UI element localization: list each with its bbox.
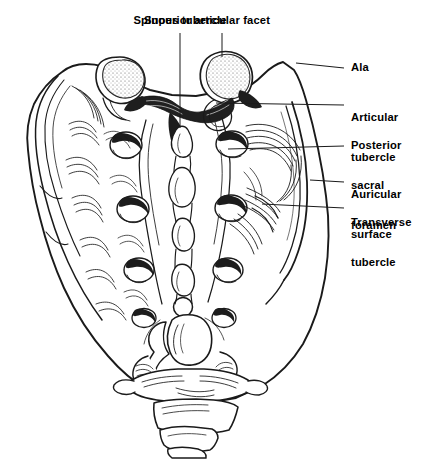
label-transverse-tubercle: Transverse tubercle — [351, 190, 412, 296]
label-ala: Ala — [351, 61, 369, 74]
foramen-right-4 — [212, 308, 236, 327]
coccyx-transverse-process-right — [246, 380, 268, 395]
label-transverse-tubercle-line1: Transverse — [351, 216, 412, 229]
label-superior-articular-facet: Superior articular facet — [144, 14, 302, 27]
foramen-left-3 — [124, 258, 154, 283]
leader-ala — [296, 63, 344, 68]
foramen-left-4 — [132, 309, 156, 328]
median-crest-tubercle-2 — [169, 168, 195, 208]
sacrum-figure: Spinous tubercle Superior articular face… — [0, 0, 423, 459]
median-crest-tubercle-3 — [172, 218, 194, 251]
foramen-right-2 — [215, 195, 247, 222]
foramen-right-1 — [216, 131, 248, 158]
foramen-left-2 — [117, 196, 149, 223]
foramen-left-1 — [110, 132, 142, 159]
coccyx-transverse-process-left — [113, 380, 135, 394]
median-crest-lower — [168, 315, 212, 365]
foramen-right-3 — [213, 258, 243, 283]
label-transverse-tubercle-line2: tubercle — [351, 256, 412, 269]
median-crest-tubercle-4 — [172, 264, 195, 296]
label-posterior-sacral-foramen-line1: Posterior — [351, 139, 401, 152]
